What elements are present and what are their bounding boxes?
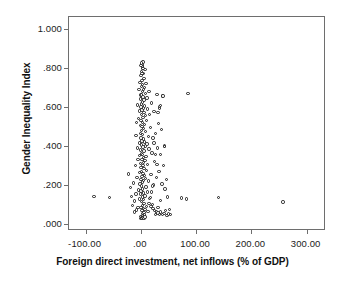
x-axis-tick-labels: -100.00.00100.00200.00300.00 (0, 238, 345, 252)
data-point (156, 146, 159, 149)
data-point (144, 130, 147, 133)
data-point (134, 134, 137, 137)
data-point (160, 128, 163, 131)
data-point (144, 155, 147, 158)
data-point (163, 187, 166, 190)
data-point (145, 205, 148, 208)
data-point (135, 176, 138, 179)
data-point (217, 196, 220, 199)
data-point (281, 200, 284, 203)
data-point (154, 132, 157, 135)
data-point (143, 215, 146, 218)
data-point (149, 173, 152, 176)
data-point (145, 119, 148, 122)
y-axis-title: Gender Inequality Index (21, 12, 32, 226)
y-axis-tick (64, 29, 69, 30)
data-point (145, 96, 148, 99)
data-point (146, 210, 149, 213)
scatter-data-layer (69, 17, 324, 229)
data-point (135, 121, 138, 124)
data-point (151, 136, 154, 139)
data-point (162, 164, 165, 167)
x-axis-title: Foreign direct investment, net inflows (… (0, 256, 345, 267)
x-axis-tick-label: 300.00 (291, 238, 321, 249)
data-point (156, 206, 159, 209)
data-point (130, 195, 133, 198)
data-point (134, 164, 137, 167)
data-point (166, 195, 169, 198)
y-axis-tick (64, 68, 69, 69)
scatter-plot-screenshot: .000.200.400.600.8001.000 -100.00.00100.… (0, 0, 345, 283)
y-axis-tick (64, 185, 69, 186)
x-axis-tick (86, 229, 87, 234)
data-point (157, 122, 160, 125)
data-point (145, 142, 148, 145)
data-point (186, 92, 189, 95)
data-point (161, 213, 164, 216)
data-point (146, 107, 149, 110)
data-point (148, 113, 151, 116)
x-axis-tick-label: 200.00 (236, 238, 266, 249)
data-point (156, 111, 159, 114)
plot-frame (68, 16, 325, 230)
data-point (147, 135, 150, 138)
data-point (163, 145, 166, 148)
data-point (143, 194, 146, 197)
data-point (146, 163, 149, 166)
data-point (150, 101, 153, 104)
data-point (132, 181, 135, 184)
data-point (147, 147, 150, 150)
y-axis-tick-label: 1.000 (38, 22, 62, 33)
data-point (159, 104, 162, 107)
y-axis-tick (64, 107, 69, 108)
data-point (165, 178, 168, 181)
data-point (154, 153, 157, 156)
data-point (151, 184, 154, 187)
data-point (155, 176, 158, 179)
data-point (152, 141, 155, 144)
data-point (149, 126, 152, 129)
data-point (142, 77, 145, 80)
data-point (161, 94, 164, 97)
data-point (147, 90, 150, 93)
data-point (155, 163, 158, 166)
data-point (145, 169, 148, 172)
data-point (159, 199, 162, 202)
data-point (134, 192, 137, 195)
data-point (144, 114, 147, 117)
y-axis-tick (64, 224, 69, 225)
x-axis-tick-label: .00 (133, 238, 147, 249)
data-point (92, 195, 95, 198)
data-point (140, 72, 143, 75)
data-point (108, 196, 111, 199)
x-axis-tick-label: 100.00 (180, 238, 210, 249)
data-point (185, 197, 188, 200)
data-point (142, 149, 145, 152)
data-point (142, 198, 145, 201)
data-point (160, 182, 163, 185)
y-axis-tick (64, 146, 69, 147)
data-point (131, 204, 134, 207)
data-point (133, 199, 136, 202)
data-point (168, 208, 171, 211)
data-point (141, 133, 144, 136)
x-axis-tick-label: -100.00 (68, 238, 101, 249)
x-axis-tick (141, 229, 142, 234)
data-point (155, 93, 158, 96)
data-point (150, 190, 153, 193)
data-point (158, 107, 161, 110)
data-point (147, 179, 150, 182)
y-axis-tick-label: .600 (43, 100, 62, 111)
data-point (144, 82, 147, 85)
y-axis-tick-label: .000 (43, 218, 62, 229)
data-point (144, 185, 147, 188)
data-point (143, 159, 146, 162)
data-point (129, 186, 132, 189)
data-point (169, 213, 172, 216)
y-axis-tick-label: .200 (43, 179, 62, 190)
data-point (143, 86, 146, 89)
x-axis-tick (196, 229, 197, 234)
data-point (157, 170, 160, 173)
data-point (159, 153, 162, 156)
x-axis-tick (307, 229, 308, 234)
